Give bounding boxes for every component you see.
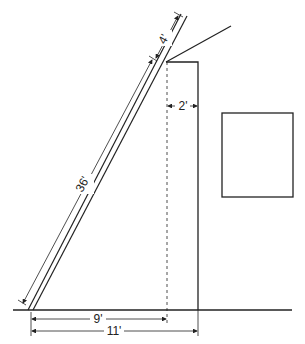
ladder <box>28 14 187 310</box>
base-to-support-label: 9' <box>94 312 103 326</box>
roof-line <box>166 26 231 62</box>
base-to-wall-dimension: 11' <box>32 324 197 338</box>
ladder-diagram: 36' 4' 2' 9' 11' <box>0 0 305 344</box>
base-to-support-dimension: 9' <box>32 312 166 326</box>
base-to-wall-label: 11' <box>107 324 122 338</box>
ladder-length-dimension: 36' <box>18 56 157 305</box>
wall-offset-label: 2' <box>179 99 188 113</box>
wall-offset-dimension: 2' <box>168 99 197 113</box>
window <box>222 113 293 197</box>
